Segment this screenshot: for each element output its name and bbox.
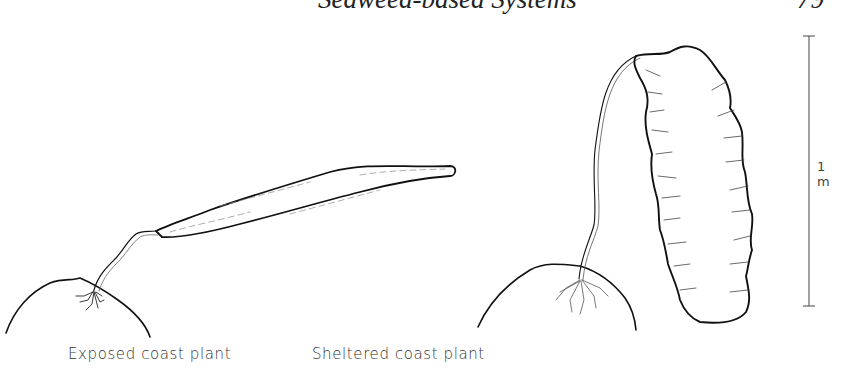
caption-exposed-coast-plant: Exposed coast plant — [68, 345, 231, 363]
exposed-rock — [6, 278, 150, 337]
sheltered-plant-drawing — [478, 46, 752, 330]
sheltered-rock — [478, 264, 636, 330]
caption-sheltered-coast-plant: Sheltered coast plant — [312, 345, 485, 363]
scale-bar — [803, 36, 815, 306]
scale-bar-label: 1 m — [817, 159, 846, 189]
sheltered-holdfast — [556, 280, 608, 314]
exposed-plant-drawing — [6, 166, 455, 337]
sheltered-frond — [634, 46, 752, 322]
exposed-holdfast — [76, 290, 104, 310]
exposed-frond — [156, 166, 455, 237]
seaweed-figure — [0, 0, 846, 377]
sheltered-stipe — [579, 56, 636, 279]
